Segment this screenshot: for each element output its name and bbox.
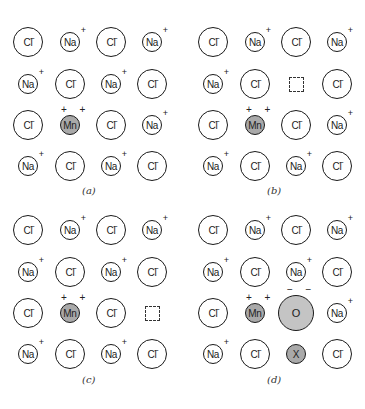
na-ion: Na+ [327, 303, 347, 323]
ion-symbol: Mn [248, 120, 261, 131]
ion-symbol: Na [105, 267, 117, 278]
ion-charge: + [224, 256, 229, 265]
ion-symbol: Na [207, 267, 219, 278]
cl-ion: Cl− [137, 339, 167, 369]
na-ion: Na+ [60, 220, 80, 240]
ion-symbol: Na [105, 79, 117, 90]
cl-ion: Cl− [13, 215, 43, 245]
na-ion: Na+ [142, 220, 162, 240]
cl-ion: Cl− [96, 298, 126, 328]
mn-ion: Mn [245, 115, 265, 135]
ion-symbol: Na [105, 161, 117, 172]
na-ion: Na+ [245, 220, 265, 240]
ion-charge: − [30, 222, 35, 231]
cl-ion: Cl− [240, 151, 270, 181]
cl-ion: Cl− [322, 339, 352, 369]
ion-symbol: Na [22, 349, 34, 360]
ion-charge: + [266, 26, 271, 35]
ion-symbol: Na [146, 37, 158, 48]
mn-ion: Mn [60, 303, 80, 323]
na-ion: Na+ [203, 262, 223, 282]
ion-charge: + + [61, 293, 90, 303]
ion-symbol: Na [249, 37, 261, 48]
ion-charge: + [122, 150, 127, 159]
ion-charge: + [39, 338, 44, 347]
cl-ion: Cl− [55, 257, 85, 287]
ion-charge: + [224, 150, 229, 159]
ion-charge: + + [246, 293, 275, 303]
ion-charge: + [348, 297, 353, 306]
ion-charge: − [113, 305, 118, 314]
na-ion: Na+ [18, 262, 38, 282]
ion-charge: − [154, 76, 159, 85]
ion-charge: − [257, 346, 262, 355]
ion-charge: − [215, 117, 220, 126]
ion-charge: − [154, 264, 159, 273]
cl-ion: Cl− [322, 69, 352, 99]
mn-ion: Mn [245, 303, 265, 323]
ion-charge: − [72, 158, 77, 167]
cl-ion: Cl− [281, 215, 311, 245]
ion-charge: − [257, 76, 262, 85]
ion-symbol: Na [146, 225, 158, 236]
ion-charge: − [113, 222, 118, 231]
cl-ion: Cl− [198, 110, 228, 140]
ion-charge: − [72, 264, 77, 273]
ion-symbol: Na [22, 79, 34, 90]
ion-symbol: Na [207, 349, 219, 360]
na-ion: Na+ [142, 32, 162, 52]
vacancy-site [145, 306, 160, 321]
ion-symbol: O [292, 307, 300, 319]
na-ion: Na+ [286, 262, 306, 282]
na-ion: Na+ [60, 32, 80, 52]
ion-symbol: Na [290, 267, 302, 278]
ion-symbol: Na [331, 120, 343, 131]
ion-charge: − [215, 222, 220, 231]
ion-charge: + [39, 150, 44, 159]
mn-ion: Mn [60, 115, 80, 135]
ion-charge: + + [61, 105, 90, 115]
ion-charge: − [154, 346, 159, 355]
ion-charge: − [72, 76, 77, 85]
cl-ion: Cl− [13, 110, 43, 140]
ion-charge: + + [246, 105, 275, 115]
cl-ion: Cl− [55, 339, 85, 369]
cl-ion: Cl− [281, 110, 311, 140]
na-ion: Na+ [203, 344, 223, 364]
ion-charge: + [163, 26, 168, 35]
cl-ion: Cl− [96, 110, 126, 140]
ion-symbol: Na [64, 37, 76, 48]
o-ion: O [278, 295, 314, 331]
ion-charge: − [215, 34, 220, 43]
cl-ion: Cl− [55, 151, 85, 181]
na-ion: Na+ [327, 115, 347, 135]
na-ion: Na+ [18, 74, 38, 94]
ion-charge: + [307, 150, 312, 159]
ion-charge: + [81, 214, 86, 223]
na-ion: Na+ [18, 156, 38, 176]
cl-ion: Cl− [137, 151, 167, 181]
na-ion: Na+ [327, 220, 347, 240]
ion-charge: + [81, 26, 86, 35]
ion-charge: − [339, 158, 344, 167]
vacancy-site [289, 77, 304, 92]
na-ion: Na+ [101, 156, 121, 176]
ion-symbol: Na [331, 308, 343, 319]
panel-label-d: (d) [267, 374, 281, 385]
cl-ion: Cl− [137, 257, 167, 287]
ion-symbol: Na [290, 161, 302, 172]
panel-label-a: (a) [82, 185, 96, 196]
ion-symbol: Na [22, 267, 34, 278]
x-ion: X [286, 344, 306, 364]
ion-charge: − [154, 158, 159, 167]
ion-charge: + [122, 256, 127, 265]
ion-charge: − [339, 346, 344, 355]
ion-symbol: Na [249, 225, 261, 236]
cl-ion: Cl− [240, 69, 270, 99]
na-ion: Na+ [245, 32, 265, 52]
ion-charge: − [298, 34, 303, 43]
ion-charge: − [113, 34, 118, 43]
cl-ion: Cl− [322, 257, 352, 287]
ion-charge: + [163, 214, 168, 223]
ion-charge: + [39, 256, 44, 265]
